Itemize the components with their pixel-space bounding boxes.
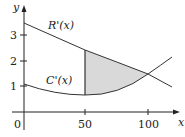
y-axis-arrow-icon: [22, 5, 27, 12]
origin-label: 0: [14, 118, 21, 131]
c-prime-label: C'(x): [46, 74, 72, 87]
chart: y x 3 2 1 0 50 100 R'(x) C'(x): [0, 0, 185, 137]
x-axis-label: x: [178, 116, 185, 129]
r-prime-label: R'(x): [47, 19, 74, 32]
y-tick-label-3: 3: [10, 29, 17, 42]
y-tick-label-2: 2: [10, 55, 17, 68]
y-axis-label: y: [12, 1, 20, 14]
x-axis-arrow-icon: [173, 110, 180, 115]
x-tick-label-100: 100: [138, 118, 159, 131]
x-tick-label-50: 50: [78, 118, 92, 131]
shaded-area: [85, 50, 148, 95]
y-tick-label-1: 1: [10, 80, 17, 93]
